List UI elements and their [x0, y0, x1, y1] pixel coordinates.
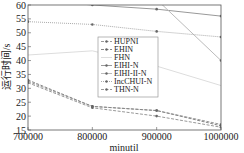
data-point	[155, 8, 158, 11]
y-tick-label: 40	[16, 55, 26, 66]
x-tick-label: 900000	[142, 131, 172, 142]
data-point	[155, 115, 158, 118]
y-tick-label: 35	[16, 69, 26, 80]
legend-marker-icon	[105, 40, 107, 42]
x-axis-label: minutil	[110, 142, 139, 153]
legend-marker-icon	[105, 64, 107, 66]
data-point	[91, 23, 94, 26]
data-point	[91, 106, 94, 109]
x-axis-ticks: 7000008000009000001000000	[13, 127, 239, 142]
legend: HUPNIEHINFHNEIHI-NEIHI-II-NIncCHUI-NTHN-…	[98, 37, 158, 97]
legend-marker-icon	[105, 72, 107, 74]
y-tick-label: 45	[16, 41, 26, 52]
series-line-incchui-n	[28, 22, 221, 37]
y-tick-label: 50	[16, 27, 26, 38]
y-tick-label: 60	[16, 0, 26, 11]
legend-marker-icon	[105, 80, 107, 82]
x-tick-label: 700000	[13, 131, 43, 142]
data-point	[155, 30, 158, 33]
x-tick-label: 1000000	[204, 131, 239, 142]
series-line-eihi-n	[28, 0, 221, 16]
y-tick-label: 55	[16, 13, 26, 24]
y-tick-label: 25	[16, 97, 26, 108]
y-axis-label: 运行时间/s	[0, 44, 12, 91]
legend-item-label: THN-N	[114, 85, 139, 94]
data-point	[155, 109, 158, 112]
y-axis-ticks: 15202530354045505560	[16, 0, 31, 136]
legend-marker-icon	[105, 48, 107, 50]
data-point	[27, 0, 30, 1]
data-point	[155, 0, 158, 1]
y-tick-label: 30	[16, 83, 26, 94]
line-chart: 15202530354045505560 7000008000009000001…	[0, 0, 244, 153]
legend-marker-icon	[105, 88, 107, 90]
y-tick-label: 20	[16, 111, 26, 122]
x-tick-label: 800000	[77, 131, 107, 142]
